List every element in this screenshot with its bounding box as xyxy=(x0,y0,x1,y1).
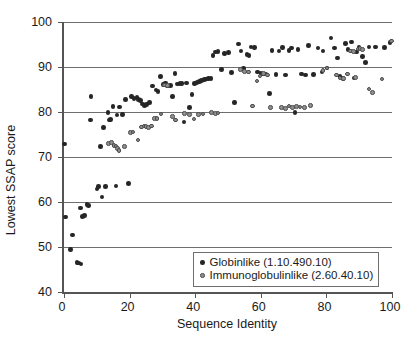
data-point xyxy=(101,125,106,130)
data-point xyxy=(155,116,160,121)
data-point xyxy=(216,49,221,54)
x-tick-60 xyxy=(261,292,262,298)
data-point xyxy=(89,94,94,99)
data-point xyxy=(280,45,285,50)
legend: Globinlike (1.10.490.10) Immunoglobulinl… xyxy=(193,252,379,287)
y-tick-label-50: 50 xyxy=(6,241,52,254)
data-point xyxy=(117,105,122,110)
data-point xyxy=(296,47,301,52)
data-point xyxy=(100,195,105,200)
data-point xyxy=(246,70,251,75)
data-point xyxy=(70,233,75,238)
data-point xyxy=(265,73,270,78)
x-tick-80 xyxy=(326,292,327,298)
x-tick-label-40: 40 xyxy=(171,301,215,314)
data-point xyxy=(236,42,241,47)
data-point xyxy=(289,46,294,51)
data-point xyxy=(229,70,234,75)
data-point xyxy=(226,50,231,55)
data-point xyxy=(303,73,308,78)
data-point xyxy=(306,43,311,48)
data-point xyxy=(302,105,307,110)
data-point xyxy=(252,45,257,50)
legend-item-immunoglobulinlike[interactable]: Immunoglobulinlike (2.60.40.10) xyxy=(200,269,372,282)
scatter-chart: Sequence Identity Lowest SSAP score Glob… xyxy=(0,0,417,341)
y-tick-90 xyxy=(58,67,64,68)
y-tick-label-60: 60 xyxy=(6,196,52,209)
x-tick-label-80: 80 xyxy=(302,301,346,314)
y-tick-100 xyxy=(58,22,64,23)
data-point xyxy=(247,53,252,58)
x-tick-20 xyxy=(130,292,131,298)
data-point xyxy=(274,72,279,77)
data-point xyxy=(308,103,313,108)
data-point xyxy=(370,90,375,95)
data-point xyxy=(115,113,120,118)
data-point xyxy=(131,130,136,135)
gridline-y-80 xyxy=(64,112,392,113)
x-axis-title: Sequence Identity xyxy=(62,317,392,331)
data-point xyxy=(187,112,192,117)
data-point xyxy=(111,104,116,109)
y-tick-label-90: 90 xyxy=(6,61,52,74)
data-point xyxy=(373,45,378,50)
data-point xyxy=(184,81,189,86)
legend-item-globinlike[interactable]: Globinlike (1.10.490.10) xyxy=(200,256,372,269)
x-tick-label-100: 100 xyxy=(368,301,412,314)
data-point xyxy=(209,76,214,81)
y-tick-label-70: 70 xyxy=(6,151,52,164)
data-point xyxy=(382,45,387,50)
data-point xyxy=(165,83,170,88)
gridline-y-100 xyxy=(64,22,392,23)
data-point xyxy=(117,148,122,153)
data-point xyxy=(173,118,178,123)
data-point xyxy=(363,60,368,65)
data-point xyxy=(108,117,113,122)
data-point xyxy=(232,100,237,105)
data-point xyxy=(114,184,119,189)
data-point xyxy=(349,40,354,45)
data-point xyxy=(345,72,350,77)
data-point xyxy=(325,66,330,71)
data-point xyxy=(126,181,131,186)
data-point xyxy=(351,49,356,54)
data-point xyxy=(106,110,111,115)
data-point xyxy=(62,142,67,147)
data-point xyxy=(343,41,348,46)
data-point xyxy=(173,71,178,76)
data-point xyxy=(158,74,163,79)
data-point xyxy=(82,213,87,218)
data-point xyxy=(267,91,272,96)
data-point xyxy=(311,72,316,77)
data-point xyxy=(86,203,91,208)
data-point xyxy=(187,105,192,110)
data-point xyxy=(103,184,108,189)
x-tick-40 xyxy=(195,292,196,298)
data-point xyxy=(360,47,365,52)
data-point xyxy=(332,46,337,51)
data-point xyxy=(149,124,154,129)
x-tick-label-20: 20 xyxy=(106,301,150,314)
data-point xyxy=(293,110,298,115)
data-point xyxy=(88,118,93,123)
y-axis-title: Lowest SSAP score xyxy=(4,44,20,316)
data-point xyxy=(122,144,127,149)
data-point xyxy=(329,36,334,41)
data-point xyxy=(170,94,175,99)
data-point xyxy=(283,73,288,78)
data-point xyxy=(270,48,275,53)
legend-marker-icon xyxy=(200,260,205,265)
data-point xyxy=(367,45,372,50)
gridline-y-70 xyxy=(64,157,392,158)
data-point xyxy=(335,56,340,61)
data-point xyxy=(156,89,161,94)
y-tick-60 xyxy=(58,202,64,203)
data-point xyxy=(216,111,221,116)
data-point xyxy=(63,215,68,220)
y-tick-50 xyxy=(58,247,64,248)
data-point xyxy=(239,49,244,54)
data-point xyxy=(123,97,128,102)
data-point xyxy=(341,76,346,81)
legend-label: Immunoglobulinlike (2.60.40.10) xyxy=(210,269,374,282)
y-tick-label-40: 40 xyxy=(6,286,52,299)
